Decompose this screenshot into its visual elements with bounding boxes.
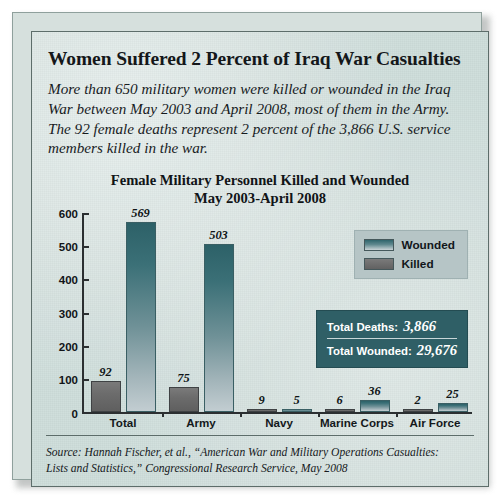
bar-group: 95 — [240, 214, 318, 412]
x-axis-label: Air Force — [396, 416, 474, 429]
page-title: Women Suffered 2 Percent of Iraq War Cas… — [48, 48, 474, 70]
infographic-page: Women Suffered 2 Percent of Iraq War Cas… — [0, 0, 504, 502]
legend-item-wounded: Wounded — [364, 238, 455, 252]
bar-value-label: 75 — [177, 371, 189, 386]
bar-value-label: 25 — [446, 387, 458, 402]
bar-killed: 9 — [247, 409, 277, 412]
chart-title-line-2: May 2003-April 2008 — [46, 190, 474, 208]
total-wounded-label: Total Wounded: — [327, 345, 412, 357]
total-deaths-value: 3,866 — [403, 318, 436, 335]
y-axis-labels: 0100200300400500600 — [48, 214, 78, 414]
source-line-1: Source: Hannah Fischer, et al., “America… — [46, 445, 474, 460]
y-axis-tick-label: 400 — [59, 274, 78, 286]
legend-label-wounded: Wounded — [401, 238, 455, 252]
x-axis-labels: TotalArmyNavyMarine CorpsAir Force — [84, 416, 474, 429]
legend-label-killed: Killed — [401, 257, 433, 271]
summary-text: More than 650 military women were killed… — [48, 79, 472, 158]
panel-frame: Women Suffered 2 Percent of Iraq War Cas… — [12, 12, 482, 480]
source-line-2: Lists and Statistics,” Congressional Res… — [46, 461, 474, 476]
y-axis-tick-label: 600 — [59, 208, 78, 220]
bar-value-label: 92 — [99, 365, 111, 380]
bar-value-label: 569 — [131, 206, 150, 221]
total-wounded-value: 29,676 — [417, 342, 457, 359]
bar-value-label: 6 — [336, 393, 342, 408]
bar-wounded: 5 — [282, 409, 312, 412]
bar-value-label: 2 — [414, 393, 420, 408]
legend-swatch-killed — [364, 258, 394, 270]
source-note: Source: Hannah Fischer, et al., “America… — [46, 435, 474, 476]
bar-value-label: 5 — [293, 393, 299, 408]
bar-value-label: 503 — [209, 228, 228, 243]
bar-killed: 2 — [403, 409, 433, 412]
bar-wounded: 569 — [126, 222, 156, 412]
bar-wounded: 25 — [438, 403, 468, 411]
y-axis-tick-label: 300 — [59, 308, 78, 320]
bar-group: 92569 — [84, 214, 162, 412]
legend-item-killed: Killed — [364, 257, 455, 271]
chart-legend: Wounded Killed — [354, 230, 468, 279]
x-axis-label: Army — [162, 416, 240, 429]
bar-killed: 92 — [91, 381, 121, 412]
y-axis-tick-label: 0 — [72, 408, 78, 420]
chart-title-line-1: Female Military Personnel Killed and Wou… — [46, 172, 474, 190]
bar-value-label: 36 — [368, 384, 380, 399]
infographic-panel: Women Suffered 2 Percent of Iraq War Cas… — [31, 31, 489, 487]
bar-wounded: 503 — [204, 244, 234, 412]
total-wounded-row: Total Wounded: 29,676 — [327, 338, 457, 362]
y-axis-tick-label: 500 — [59, 241, 78, 253]
x-axis-label: Marine Corps — [318, 416, 396, 429]
total-deaths-label: Total Deaths: — [327, 321, 398, 333]
y-axis-tick-label: 200 — [59, 341, 78, 353]
bar-group: 75503 — [162, 214, 240, 412]
plot-area: 0100200300400500600 925697550395636225 T… — [48, 214, 474, 414]
x-axis-line — [82, 412, 472, 414]
chart-title: Female Military Personnel Killed and Wou… — [46, 172, 474, 208]
bar-value-label: 9 — [258, 393, 264, 408]
totals-callout: Total Deaths: 3,866 Total Wounded: 29,67… — [316, 310, 468, 368]
y-axis-tick-label: 100 — [59, 374, 78, 386]
x-axis-label: Navy — [240, 416, 318, 429]
bar-killed: 75 — [169, 387, 199, 412]
legend-swatch-wounded — [364, 239, 394, 251]
total-deaths-row: Total Deaths: 3,866 — [327, 315, 457, 338]
bar-killed: 6 — [325, 409, 355, 412]
x-axis-label: Total — [84, 416, 162, 429]
bar-wounded: 36 — [360, 400, 390, 412]
chart-container: Female Military Personnel Killed and Wou… — [46, 172, 474, 422]
